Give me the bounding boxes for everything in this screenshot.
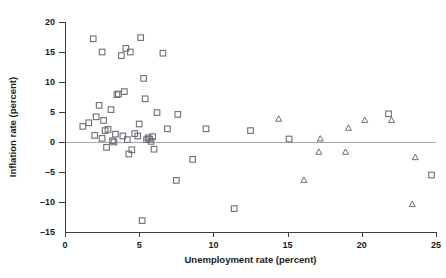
data-point-triangle xyxy=(345,125,351,130)
data-point-square xyxy=(160,50,166,56)
data-point-square xyxy=(190,157,196,163)
data-point-square xyxy=(108,107,114,113)
x-tick-label: 15 xyxy=(283,240,293,250)
data-point-triangle xyxy=(316,149,322,154)
data-point-square xyxy=(86,120,92,126)
series-triangle xyxy=(276,116,419,207)
x-tick-label: 10 xyxy=(208,240,218,250)
y-tick-label: 10 xyxy=(45,77,55,87)
data-point-square xyxy=(165,126,171,132)
data-point-square xyxy=(99,136,105,142)
data-point-triangle xyxy=(301,177,307,182)
y-tick-label: 20 xyxy=(45,17,55,27)
scatter-chart-figure: 20151050–5–10–150510152025Unemployment r… xyxy=(0,0,446,278)
x-tick-label: 0 xyxy=(62,240,67,250)
data-point-square xyxy=(136,121,142,127)
data-point-square xyxy=(141,76,147,82)
x-tick-label: 20 xyxy=(357,240,367,250)
data-point-triangle xyxy=(409,201,415,206)
y-tick-label: –10 xyxy=(40,197,55,207)
data-point-square xyxy=(104,145,110,151)
data-point-square xyxy=(231,206,237,212)
chart-canvas: 20151050–5–10–150510152025Unemployment r… xyxy=(0,0,446,278)
data-point-square xyxy=(154,110,160,116)
y-tick-label: 15 xyxy=(45,47,55,57)
data-point-square xyxy=(113,131,119,137)
data-point-triangle xyxy=(362,117,368,122)
data-point-square xyxy=(138,35,144,41)
data-point-square xyxy=(90,36,96,42)
data-point-square xyxy=(286,136,292,142)
data-point-square xyxy=(429,172,435,178)
data-point-triangle xyxy=(342,149,348,154)
data-point-square xyxy=(248,128,254,134)
data-point-square xyxy=(92,133,98,139)
data-point-square xyxy=(122,89,128,95)
data-point-square xyxy=(175,112,181,118)
data-point-square xyxy=(174,178,180,184)
y-tick-label: –15 xyxy=(40,227,55,237)
data-point-triangle xyxy=(276,116,282,121)
data-point-square xyxy=(96,103,102,109)
y-axis-title: Inflation rate (percent) xyxy=(7,77,18,177)
data-point-triangle xyxy=(412,154,418,159)
x-tick-label: 25 xyxy=(431,240,441,250)
data-point-square xyxy=(142,96,148,102)
data-point-square xyxy=(203,126,209,132)
data-point-square xyxy=(386,111,392,117)
data-point-square xyxy=(139,218,145,224)
data-point-square xyxy=(101,118,107,124)
data-point-square xyxy=(80,124,86,130)
y-tick-label: 0 xyxy=(50,137,55,147)
x-axis-title: Unemployment rate (percent) xyxy=(185,254,317,265)
series-square xyxy=(80,35,434,224)
x-tick-label: 5 xyxy=(137,240,142,250)
data-point-square xyxy=(119,53,125,59)
data-point-triangle xyxy=(388,117,394,122)
data-point-square xyxy=(151,146,157,152)
data-point-square xyxy=(93,114,99,120)
y-tick-label: 5 xyxy=(50,107,55,117)
data-point-triangle xyxy=(317,136,323,141)
data-point-square xyxy=(99,49,105,55)
y-tick-label: –5 xyxy=(45,167,55,177)
